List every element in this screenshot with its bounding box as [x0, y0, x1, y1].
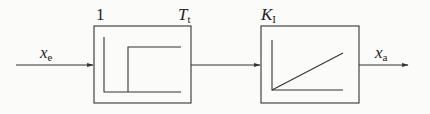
ramp-response-icon	[272, 40, 343, 90]
dead-time-gain-label: 1	[96, 5, 105, 24]
input-signal: xe	[16, 43, 93, 65]
output-signal: xa	[359, 43, 408, 65]
integral-block-frame	[261, 26, 359, 103]
output-label: xa	[374, 43, 388, 63]
dead-time-block: 1 Tt	[94, 5, 191, 103]
integral-block: KI	[260, 5, 359, 103]
block-diagram: xe 1 Tt KI xa	[0, 0, 430, 114]
step-response-icon	[104, 37, 181, 92]
integral-gain-label: KI	[260, 5, 276, 25]
dead-time-delay-label: Tt	[178, 5, 191, 25]
input-label: xe	[39, 43, 53, 63]
